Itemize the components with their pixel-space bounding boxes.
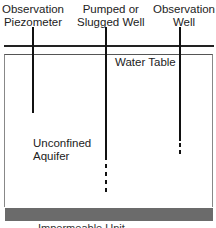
pumped-well-screen [105, 180, 107, 184]
aquifer-box [4, 54, 213, 207]
label-impermeable-unit: Impermeable Unit [38, 222, 125, 228]
label-observation-piezometer: Observation Piezometer [2, 3, 64, 29]
label-line: Unconfined [33, 137, 91, 150]
label-pumped-well: Pumped or Slugged Well [77, 3, 145, 29]
ground-surface-line [4, 45, 214, 47]
pumped-well-screen [105, 172, 107, 176]
label-water-table: Water Table [115, 56, 176, 69]
label-line: Slugged Well [77, 16, 145, 29]
impermeable-layer [5, 208, 213, 221]
observation-well-screen [179, 150, 181, 154]
observation-well-casing [179, 27, 181, 141]
label-line: Pumped or [77, 3, 145, 16]
pumped-well-screen [105, 188, 107, 192]
label-observation-well: Observation Well [153, 3, 215, 29]
label-line: Well [153, 16, 215, 29]
piezometer-casing [32, 27, 34, 113]
label-line: Observation [153, 3, 215, 16]
pumped-well-screen [105, 164, 107, 168]
observation-well-screen [179, 143, 181, 147]
pumped-well-casing [105, 27, 107, 160]
label-line: Aquifer [33, 150, 91, 163]
label-aquifer: Unconfined Aquifer [33, 137, 91, 163]
label-line: Observation [2, 3, 64, 16]
